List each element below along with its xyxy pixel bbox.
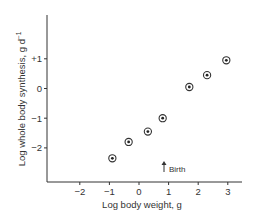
x-tick-label: 3 [225, 186, 230, 197]
marker-dot-icon [127, 141, 130, 144]
y-axis-label: Log whole body synthesis, g d−1 [15, 31, 27, 166]
y-ticks: +10−1−2 [31, 53, 47, 153]
marker-dot-icon [188, 86, 191, 89]
data-point [125, 138, 132, 145]
marker-dot-icon [161, 117, 164, 120]
y-axis: +10−1−2 [31, 15, 47, 182]
y-tick-label: 0 [37, 83, 42, 94]
scatter-chart: +10−1−2 −2−10123 Log body weight, g Log … [0, 0, 257, 224]
y-tick-label: −1 [31, 113, 42, 124]
data-point [223, 57, 230, 64]
marker-dot-icon [225, 59, 228, 62]
y-tick-label: +1 [31, 53, 42, 64]
x-tick-label: 0 [136, 186, 141, 197]
x-ticks: −2−10123 [74, 182, 230, 197]
x-tick-label: 1 [166, 186, 171, 197]
x-tick-label: 2 [196, 186, 201, 197]
annotations: Birth [162, 161, 186, 174]
x-tick-label: −1 [104, 186, 115, 197]
birth-label: Birth [169, 165, 185, 174]
marker-dot-icon [146, 130, 149, 133]
x-axis: −2−10123 [47, 182, 242, 197]
y-tick-label: −2 [31, 142, 42, 153]
x-tick-label: −2 [74, 186, 85, 197]
data-point [186, 83, 193, 90]
data-point [144, 128, 151, 135]
y-axis-label-main: Log whole body synthesis, g d [16, 39, 27, 166]
y-axis-label-superscript: −1 [15, 31, 22, 39]
data-point [203, 72, 210, 79]
arrowhead-icon [162, 161, 167, 165]
data-points [109, 57, 230, 162]
data-point [109, 155, 116, 162]
birth-annotation: Birth [162, 161, 186, 174]
marker-dot-icon [206, 74, 209, 77]
x-axis-label: Log body weight, g [102, 199, 182, 210]
data-point [159, 115, 166, 122]
marker-dot-icon [111, 157, 114, 160]
